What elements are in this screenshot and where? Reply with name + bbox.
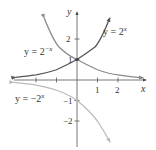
y-tick-label-neg2: −2 [63,116,73,126]
x-axis-label: x [140,83,146,94]
label-y-equals-2-x: y = 2x [103,25,128,37]
intersection-point [75,58,78,61]
y-tick-label-1: 1 [68,55,73,65]
y-tick-label-neg1: −1 [63,96,73,106]
label-y-equals-2-neg-x: y = 2−x [24,45,53,57]
exponential-graph: y x 1 2 2 1 −1 −2 y = 2x y = 2−x y = −2x [0,0,156,150]
x-tick-label-2: 2 [115,85,120,95]
y-axis-label: y [66,6,72,17]
label-y-equals-neg-2-x: y = −2x [15,92,45,104]
x-tick-label-1: 1 [95,85,100,95]
y-tick-label-2: 2 [66,34,71,44]
